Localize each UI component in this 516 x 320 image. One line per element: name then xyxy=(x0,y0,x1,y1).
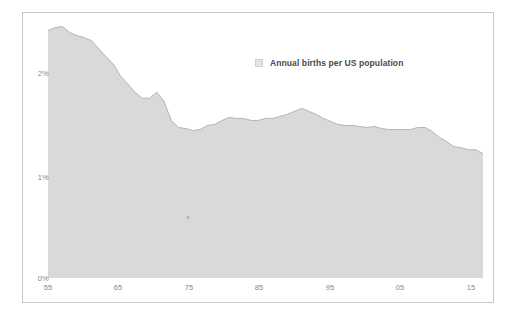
plot-area: 0% 1% 2% 55 65 75 85 95 05 15 Annual bir… xyxy=(23,13,493,302)
x-tick-label-65: 65 xyxy=(106,283,130,292)
y-tick-label-0: 0% xyxy=(23,274,49,283)
x-tick-label-75: 75 xyxy=(177,283,201,292)
x-tick-label-05: 05 xyxy=(388,283,412,292)
legend-series-label: Annual births per US population xyxy=(270,58,403,68)
legend-square-icon xyxy=(255,59,263,67)
image-speck-artifact xyxy=(187,216,189,219)
x-tick-label-85: 85 xyxy=(247,283,271,292)
x-tick-label-55: 55 xyxy=(36,283,60,292)
x-tick-label-15: 15 xyxy=(459,283,483,292)
y-tick-label-2: 2% xyxy=(23,69,49,78)
chart-card: 0% 1% 2% 55 65 75 85 95 05 15 Annual bir… xyxy=(22,12,494,303)
y-tick-label-1: 1% xyxy=(23,173,49,182)
area-chart-svg xyxy=(23,13,493,302)
x-tick-label-95: 95 xyxy=(318,283,342,292)
chart-legend: Annual births per US population xyxy=(255,58,403,68)
